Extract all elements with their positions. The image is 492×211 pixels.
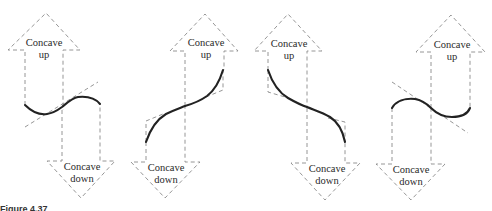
- down-arrow-label-line2: down: [154, 174, 178, 185]
- down-arrow-label-line1: Concave: [148, 162, 185, 173]
- down-arrow-label-line2: down: [70, 173, 94, 184]
- panel-4: Concave up Concave down: [376, 15, 485, 200]
- up-arrow-label-line2: up: [39, 49, 50, 60]
- up-arrow-label-line2: up: [284, 50, 295, 61]
- inflection-curve: [25, 97, 100, 114]
- inflection-curve: [392, 99, 470, 117]
- down-arrow-label-line2: down: [315, 175, 339, 186]
- panel-2: Concave up Concave down: [131, 14, 238, 198]
- up-arrow-outline: [254, 14, 322, 108]
- inflection-curve: [146, 70, 223, 142]
- up-arrow-label-line1: Concave: [271, 38, 308, 49]
- panel-3: Concave up Concave down: [254, 14, 360, 200]
- down-arrow-label-line2: down: [399, 176, 423, 187]
- up-arrow-label-line1: Concave: [434, 39, 471, 50]
- down-arrow-label-line1: Concave: [64, 161, 101, 172]
- up-arrow-label-line1: Concave: [26, 37, 63, 48]
- down-arrow-label-line1: Concave: [393, 164, 430, 175]
- up-arrow-label-line2: up: [201, 49, 212, 60]
- down-arrow-label-line1: Concave: [309, 163, 346, 174]
- concavity-figure: Concave up Concave down Concave up Conca…: [0, 0, 492, 211]
- tangent-line: [25, 82, 98, 127]
- up-arrow-label-line1: Concave: [188, 37, 225, 48]
- figure-caption: Figure 4.37: [0, 203, 48, 211]
- inflection-curve: [268, 70, 345, 142]
- up-arrow-outline: [8, 13, 80, 110]
- down-arrow-outline: [291, 108, 360, 200]
- up-arrow-label-line2: up: [447, 51, 458, 62]
- panel-1: Concave up Concave down: [8, 13, 115, 198]
- up-arrow-outline: [170, 14, 238, 106]
